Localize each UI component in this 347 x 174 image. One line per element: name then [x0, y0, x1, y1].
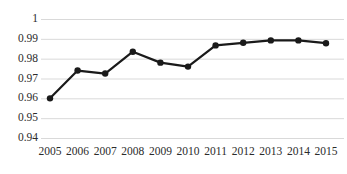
y-tick-label-1: 0.95 [0, 112, 38, 124]
data-point-2008 [130, 49, 136, 55]
x-tick-label-2011: 2011 [204, 146, 227, 158]
data-point-2014 [295, 37, 301, 43]
y-tick-label-4: 0.98 [0, 53, 38, 65]
x-tick-label-2005: 2005 [39, 146, 62, 158]
y-tick-label-2: 0.96 [0, 92, 38, 104]
data-point-2010 [185, 63, 191, 69]
x-tick-label-2014: 2014 [287, 146, 310, 158]
x-tick-label-2012: 2012 [232, 146, 255, 158]
data-point-2009 [157, 59, 163, 65]
x-tick-label-2010: 2010 [177, 146, 200, 158]
x-tick-label-2015: 2015 [315, 146, 338, 158]
data-point-2011 [212, 42, 218, 48]
line-chart: 0.940.950.960.970.980.991 20052006200720… [0, 0, 347, 174]
y-tick-label-0: 0.94 [0, 132, 38, 144]
x-tick-label-2007: 2007 [94, 146, 117, 158]
y-tick-label-5: 0.99 [0, 33, 38, 45]
data-point-2005 [47, 95, 53, 101]
x-tick-label-2009: 2009 [149, 146, 172, 158]
x-tick-label-2008: 2008 [121, 146, 144, 158]
x-tick-label-2006: 2006 [66, 146, 89, 158]
data-point-2006 [74, 67, 80, 73]
series-markers [47, 37, 329, 101]
y-tick-label-3: 0.97 [0, 73, 38, 85]
data-point-2012 [240, 40, 246, 46]
data-point-2007 [102, 70, 108, 76]
data-point-2015 [323, 40, 329, 46]
y-tick-label-6: 1 [0, 13, 38, 25]
x-tick-label-2013: 2013 [259, 146, 282, 158]
data-point-2013 [268, 37, 274, 43]
